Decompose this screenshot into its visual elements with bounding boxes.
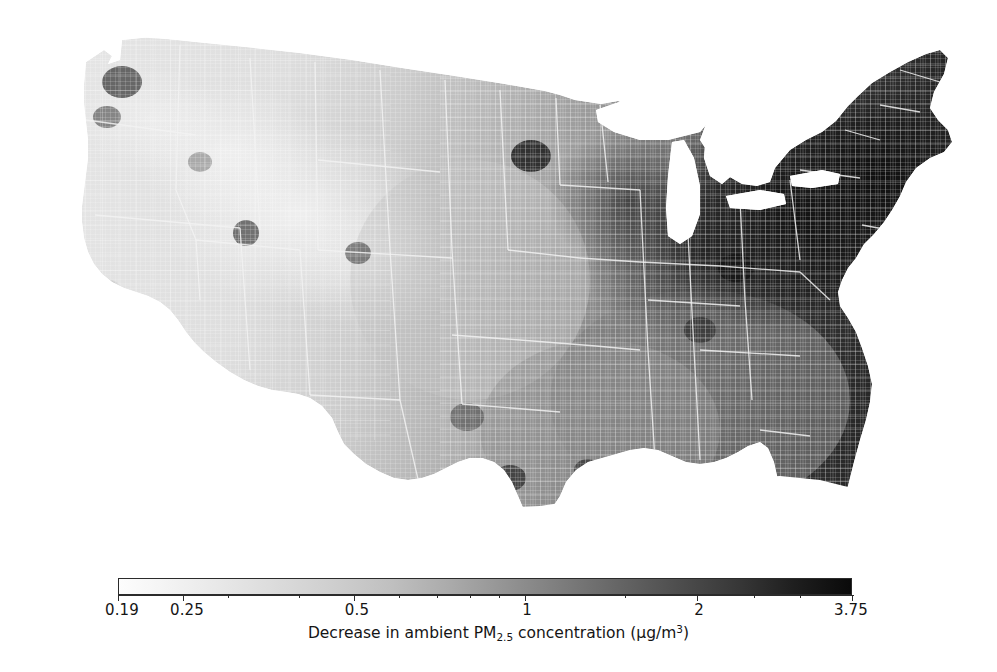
colorbar-minor-tick-1.5	[625, 595, 626, 598]
colorbar-legend: 0.19 0.25 0.5 1 2 3.75 Decrease in ambie…	[0, 565, 997, 672]
colorbar-ticklabel-0: 0.19	[105, 601, 139, 619]
colorbar-ticklabel-2: 0.5	[345, 601, 369, 619]
figure-root: 0.19 0.25 0.5 1 2 3.75 Decrease in ambie…	[0, 0, 997, 672]
colorbar-minor-tick-2.5	[754, 595, 755, 598]
colorbar-ticklabel-3: 1	[522, 601, 532, 619]
choropleth-map	[0, 0, 997, 565]
colorbar-minor-tick-0.4	[299, 595, 300, 598]
colorbar-ticklabel-5: 3.75	[834, 601, 868, 619]
colorbar-title-suffix: )	[683, 624, 689, 642]
colorbar-gradient	[118, 578, 852, 595]
colorbar-minor-tick-0.9	[499, 595, 500, 598]
colorbar-ticklabel-4: 2	[694, 601, 704, 619]
colorbar-gradient-wrap	[118, 578, 852, 595]
colorbar-title-prefix: Decrease in ambient PM	[308, 624, 496, 642]
colorbar-minor-tick-0.8	[470, 595, 471, 598]
colorbar-title-subscript: 2.5	[496, 631, 513, 643]
colorbar-minor-tick-0.3	[228, 595, 229, 598]
us-county-map-svg	[0, 0, 997, 565]
colorbar-minor-tick-0.7	[437, 595, 438, 598]
colorbar-minor-tick-0.6	[399, 595, 400, 598]
colorbar-axis-title: Decrease in ambient PM2.5 concentration …	[0, 623, 997, 643]
colorbar-ticklabel-1: 0.25	[170, 601, 204, 619]
colorbar-minor-tick-3	[800, 595, 801, 598]
colorbar-title-middle: concentration (µg/m	[513, 624, 676, 642]
